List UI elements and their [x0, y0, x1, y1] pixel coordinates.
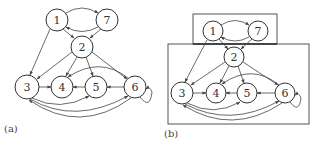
node-5: 5	[85, 76, 107, 98]
caption-a: (a)	[4, 123, 18, 134]
edge-1-7	[66, 8, 98, 13]
edges-b	[183, 21, 301, 121]
node-6: 6	[275, 83, 295, 103]
edge-1-7	[221, 21, 249, 26]
edge-2-5	[86, 57, 93, 76]
svg-text:3: 3	[179, 87, 186, 100]
node-6: 6	[124, 76, 146, 98]
edge-6-3	[29, 98, 131, 117]
edge-7-2	[90, 29, 101, 38]
edge-2-6	[92, 52, 127, 79]
node-7: 7	[248, 21, 268, 41]
edge-1-2	[63, 29, 74, 38]
svg-text:7: 7	[255, 25, 262, 38]
node-4: 4	[206, 83, 226, 103]
svg-text:6: 6	[132, 81, 139, 94]
svg-text:2: 2	[79, 41, 86, 54]
node-1: 1	[203, 21, 223, 41]
node-2: 2	[224, 47, 244, 67]
edge-1-3	[185, 40, 207, 82]
panel-b: 1 7 2 3 4 5 6 (b)	[164, 14, 309, 139]
graph-figure: 1 7 2 3 4 5 6 (a)	[0, 0, 322, 146]
node-3: 3	[171, 82, 193, 104]
node-1: 1	[46, 9, 68, 31]
node-4: 4	[51, 76, 73, 98]
svg-text:3: 3	[24, 81, 31, 94]
svg-text:5: 5	[93, 81, 100, 94]
edge-1-3	[30, 29, 50, 75]
node-5: 5	[237, 83, 257, 103]
svg-text:1: 1	[210, 25, 217, 38]
caption-b: (b)	[164, 128, 178, 139]
node-3: 3	[15, 75, 39, 99]
svg-text:7: 7	[104, 14, 111, 27]
node-7: 7	[96, 9, 118, 31]
svg-text:4: 4	[59, 81, 66, 94]
edge-7-1	[221, 37, 249, 41]
panel-a: 1 7 2 3 4 5 6 (a)	[4, 8, 152, 134]
svg-text:6: 6	[282, 87, 289, 100]
edge-7-1	[66, 27, 98, 32]
svg-text:4: 4	[213, 87, 220, 100]
edge-2-3	[191, 62, 225, 85]
svg-text:2: 2	[231, 51, 238, 64]
svg-text:1: 1	[54, 14, 61, 27]
svg-text:5: 5	[244, 87, 251, 100]
node-2: 2	[71, 36, 93, 58]
